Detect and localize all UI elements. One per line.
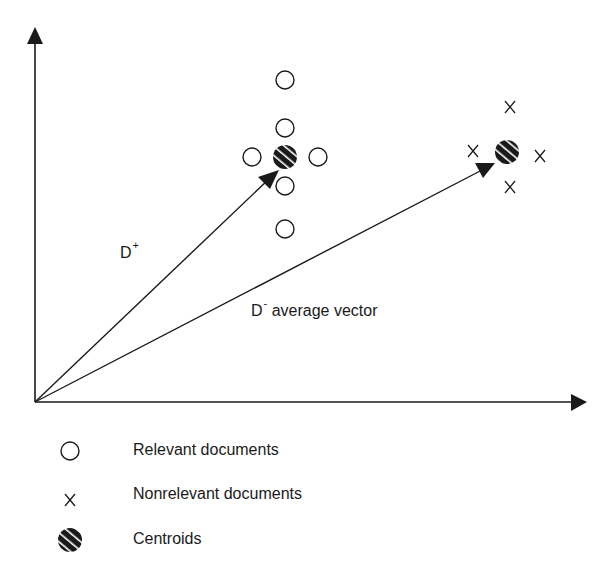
d-plus-vector [35,170,279,402]
legend-relevant-label: Relevant documents [133,441,279,459]
x-mark-icon [505,101,515,113]
open-circle-icon [276,119,294,137]
x-axis-arrowhead-icon [571,394,587,411]
open-circle-icon [243,148,261,166]
relevant-centroid-icon [273,145,297,169]
centroid-vector-diagram [0,0,608,582]
d-minus-vector [35,163,495,402]
legend-x-mark-icon [65,494,75,506]
open-circle-icon [276,177,294,195]
open-circle-icon [276,71,294,89]
nonrelevant-centroid-icon [495,140,519,164]
d-minus-label: D- average vector [251,302,378,320]
d-minus-arrowhead-icon [475,163,495,178]
x-mark-icon [505,181,515,193]
x-mark-icon [535,150,545,162]
legend-hatched-circle-icon [58,528,82,552]
x-mark-icon [468,145,478,157]
legend-open-circle-icon [61,442,79,460]
open-circle-icon [276,220,294,238]
legend-nonrelevant-label: Nonrelevant documents [133,485,302,503]
x-axis [35,394,587,411]
y-axis [27,27,43,402]
legend-centroids-label: Centroids [133,530,201,548]
d-plus-label: D+ [120,244,139,262]
y-axis-arrowhead-icon [27,27,43,44]
open-circle-icon [309,148,327,166]
